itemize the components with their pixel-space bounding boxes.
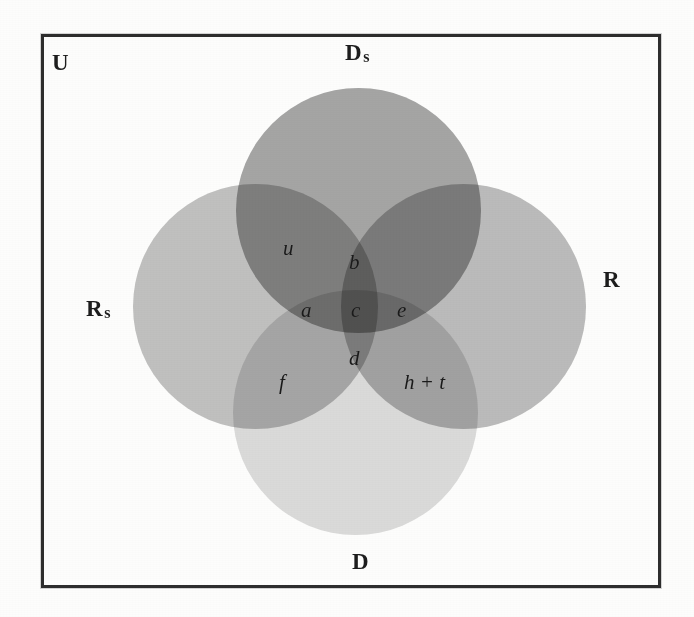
region-label-e: e: [397, 298, 406, 323]
universe-label: U: [52, 50, 69, 76]
region-label-u: u: [283, 236, 294, 261]
set-label-ds: Ds: [345, 40, 368, 66]
set-label-ds-main: D: [345, 40, 362, 65]
region-label-c: c: [351, 298, 360, 323]
set-label-rs-main: R: [86, 296, 103, 321]
region-label-f: f: [279, 370, 285, 395]
set-label-rs-subscript: s: [104, 304, 110, 321]
venn-diagram-figure: U Ds Rs R D u b a c e d f h + t: [0, 0, 694, 617]
set-label-r: R: [603, 267, 620, 293]
set-label-ds-subscript: s: [363, 48, 369, 65]
region-label-a: a: [301, 298, 312, 323]
region-label-d: d: [349, 346, 360, 371]
set-label-rs: Rs: [86, 296, 109, 322]
region-label-h-plus-t: h + t: [404, 370, 445, 395]
venn-circle-d: [233, 290, 478, 535]
region-label-b: b: [349, 250, 360, 275]
set-label-d: D: [352, 549, 369, 575]
